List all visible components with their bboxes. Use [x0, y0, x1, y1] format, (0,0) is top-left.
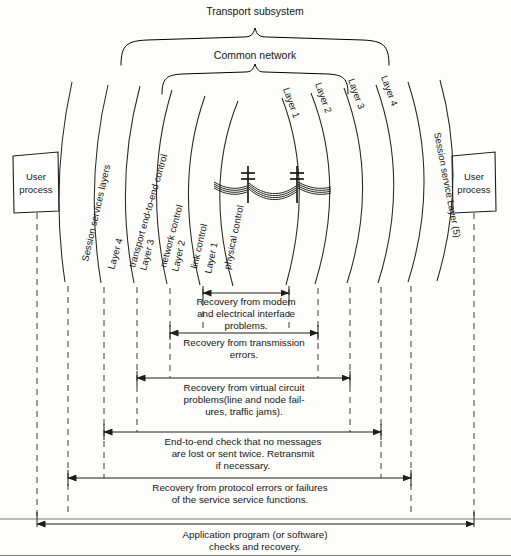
annotation-recovery-virtual-circuit-line1: Recovery from virtual circuit	[184, 382, 305, 393]
left-label-session-services: Session services layers	[79, 163, 112, 262]
annotation-end-to-end-check-line1: End-to-end check that no messages	[165, 436, 322, 447]
annotation-recovery-modem-line2: and electrical interface	[197, 308, 296, 319]
diagram-canvas: Transport subsystem Common network User …	[0, 0, 511, 556]
right-user-process-line2: process	[457, 184, 491, 195]
right-label-layer4: Layer 4	[379, 74, 400, 108]
annotation-recovery-protocol-line2: of the service service functions.	[172, 494, 309, 505]
right-layer-arcs	[282, 80, 453, 285]
transport-subsystem-title: Transport subsystem	[206, 5, 304, 17]
right-label-layer3: Layer 3	[346, 77, 367, 111]
annotation-end-to-end-check-line2: are lost or sent twice. Retransmit	[172, 448, 315, 459]
left-label-layer1-num: Layer 1	[202, 241, 219, 274]
annotation-application-program: Application program (or software) checks…	[37, 512, 474, 552]
annotation-end-to-end-check: End-to-end check that no messages are lo…	[104, 424, 381, 471]
transmission-line-poles-icon	[214, 166, 331, 203]
left-label-layer4-num: Layer 4	[105, 237, 124, 270]
annotation-recovery-modem: Recovery from modem and electrical inter…	[196, 286, 295, 331]
right-label-layer2: Layer 2	[313, 81, 334, 115]
annotation-end-to-end-check-line3: if necessary.	[216, 460, 270, 471]
right-arc-layer4	[408, 82, 424, 282]
left-label-layer1-name: physical control	[221, 204, 245, 270]
annotation-recovery-transmission-line2: errors.	[230, 349, 258, 360]
right-user-process-box: User process	[452, 152, 496, 213]
annotation-recovery-transmission-line1: Recovery from transmission	[183, 337, 304, 348]
annotation-application-program-line2: checks and recovery.	[209, 541, 301, 552]
left-user-process-line2: process	[19, 184, 53, 195]
right-arc-layer2	[344, 88, 363, 283]
annotation-recovery-modem-line3: problems.	[224, 320, 267, 331]
right-user-process-line1: User	[464, 171, 484, 182]
right-layer-labels: Layer 1 Layer 2 Layer 3 Layer 4 Session …	[281, 74, 463, 239]
annotation-recovery-virtual-circuit-line3: ures, traffic jams).	[205, 406, 283, 417]
left-user-process-line1: User	[26, 171, 46, 182]
annotation-recovery-protocol-line1: Recovery from protocol errors or failure…	[152, 482, 327, 493]
right-arc-layer3	[376, 85, 394, 283]
left-user-process-box: User process	[13, 152, 59, 213]
annotation-recovery-modem-line1: Recovery from modem	[196, 296, 295, 307]
left-arc-session	[59, 82, 72, 282]
network-layers-diagram: Transport subsystem Common network User …	[0, 0, 511, 556]
annotation-recovery-virtual-circuit-line2: problems(line and node fail-	[184, 394, 305, 405]
common-network-title: Common network	[214, 49, 297, 61]
annotation-application-program-line1: Application program (or software)	[183, 529, 328, 540]
annotation-recovery-protocol: Recovery from protocol errors or failure…	[68, 470, 411, 505]
annotation-recovery-virtual-circuit: Recovery from virtual circuit problems(l…	[137, 371, 350, 417]
vertical-dashed-guides	[37, 213, 474, 519]
